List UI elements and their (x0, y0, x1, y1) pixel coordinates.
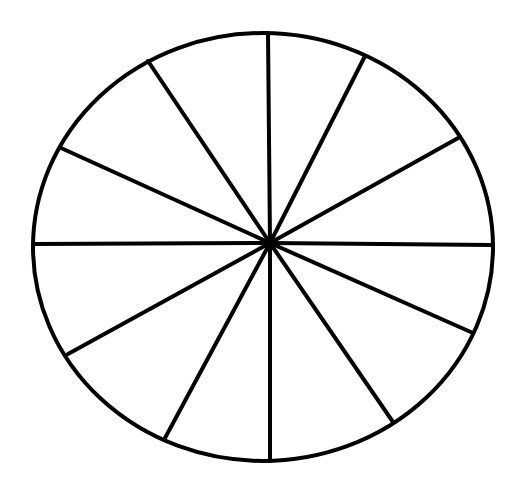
radial-line-4 (270, 243, 493, 245)
diagram-canvas (0, 0, 525, 485)
divided-circle-diagram (0, 0, 525, 485)
radial-line-10 (33, 243, 270, 244)
radial-line-1 (268, 33, 270, 243)
